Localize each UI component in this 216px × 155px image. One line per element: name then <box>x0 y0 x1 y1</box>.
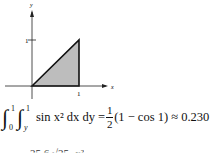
inner-upper-limit: 1 <box>26 105 30 113</box>
outer-integral-sign: ∫10 <box>2 107 15 129</box>
y-axis-label: y <box>29 2 33 8</box>
outer-upper-limit: 1 <box>11 105 15 113</box>
frac-num: 1 <box>107 105 113 116</box>
inner-lower-limit: y <box>24 124 28 132</box>
one-half-fraction: 12 <box>106 105 113 130</box>
frac-den: 2 <box>107 119 113 130</box>
x-tick-label: 1 <box>77 90 81 98</box>
cutoff-next-line: 25 6 √25−x² <box>30 147 84 155</box>
integral-equation: ∫10 ∫1y sin x² dx dy = 12 (1 − cos 1) ≈ … <box>2 105 209 130</box>
y-tick-label: 1 <box>25 37 29 45</box>
outer-lower-limit: 0 <box>9 124 13 132</box>
y-axis-arrow-icon <box>30 10 34 17</box>
inner-integral-sign: ∫1y <box>17 107 30 129</box>
integrand: sin x² dx dy = <box>36 110 105 125</box>
x-axis-arrow-icon <box>102 84 108 88</box>
region-diagram: 1 1 y x <box>0 0 120 100</box>
x-axis-label: x <box>110 84 114 90</box>
result-expression: (1 − cos 1) ≈ 0.230 <box>114 110 209 125</box>
shaded-triangle-region <box>32 40 79 86</box>
